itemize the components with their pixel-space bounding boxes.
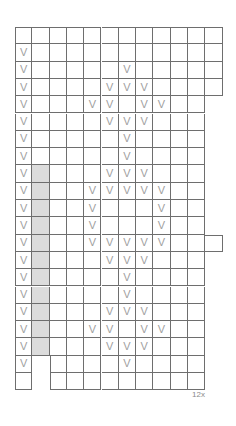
chart-cell: V — [153, 217, 170, 234]
chart-cell — [171, 269, 188, 286]
chart-cell — [188, 131, 205, 148]
v-stitch-symbol: V — [106, 323, 113, 334]
chart-cell — [188, 304, 205, 321]
chart-cell: V — [136, 338, 153, 355]
chart-cell: V — [15, 217, 32, 234]
chart-cell — [67, 114, 84, 131]
chart-cell: V — [119, 62, 136, 79]
chart-cell — [171, 373, 188, 390]
chart-cell — [171, 27, 188, 44]
chart-cell — [32, 321, 49, 338]
chart-cell — [32, 287, 49, 304]
chart-cell: V — [102, 304, 119, 321]
chart-cell — [32, 269, 49, 286]
chart-cell: V — [84, 96, 101, 113]
chart-cell: V — [102, 114, 119, 131]
chart-cell — [153, 131, 170, 148]
chart-cell: V — [136, 165, 153, 182]
chart-cell — [102, 373, 119, 390]
chart-cell — [188, 321, 205, 338]
chart-cell: V — [153, 321, 170, 338]
chart-cell: V — [15, 62, 32, 79]
chart-cell — [102, 287, 119, 304]
chart-cell — [67, 62, 84, 79]
chart-cell: V — [15, 200, 32, 217]
chart-cell — [67, 287, 84, 304]
chart-cell — [67, 148, 84, 165]
chart-cell: V — [119, 148, 136, 165]
chart-cell — [102, 148, 119, 165]
chart-cell — [67, 269, 84, 286]
chart-cell: V — [102, 338, 119, 355]
v-stitch-symbol: V — [141, 341, 148, 352]
chart-cell — [50, 304, 67, 321]
v-stitch-symbol: V — [141, 168, 148, 179]
chart-cell — [136, 200, 153, 217]
chart-cell — [188, 217, 205, 234]
v-stitch-symbol: V — [158, 202, 165, 213]
v-stitch-symbol: V — [106, 81, 113, 92]
chart-cell: V — [15, 235, 32, 252]
v-stitch-symbol: V — [20, 98, 27, 109]
v-stitch-symbol: V — [89, 98, 96, 109]
chart-cell — [50, 96, 67, 113]
v-stitch-symbol: V — [20, 116, 27, 127]
chart-cell — [153, 287, 170, 304]
chart-cell: V — [84, 235, 101, 252]
v-stitch-symbol: V — [158, 185, 165, 196]
chart-cell — [84, 287, 101, 304]
chart-cell: V — [136, 183, 153, 200]
v-stitch-symbol: V — [106, 185, 113, 196]
v-stitch-symbol: V — [20, 46, 27, 57]
v-stitch-symbol: V — [20, 271, 27, 282]
v-stitch-symbol: V — [123, 64, 130, 75]
chart-cell — [32, 252, 49, 269]
chart-cell — [136, 287, 153, 304]
chart-cell — [84, 269, 101, 286]
chart-cell: V — [15, 304, 32, 321]
chart-cell — [188, 183, 205, 200]
v-stitch-symbol: V — [141, 254, 148, 265]
v-stitch-symbol: V — [158, 98, 165, 109]
chart-cell — [32, 96, 49, 113]
v-stitch-symbol: V — [123, 133, 130, 144]
chart-cell — [153, 148, 170, 165]
chart-cell: V — [15, 183, 32, 200]
chart-grid: VVVVVVVVVVVVVVVVVVVVVVVVVVVVVVVVVVVVVVVV… — [0, 0, 236, 426]
chart-cell — [32, 183, 49, 200]
chart-cell — [67, 165, 84, 182]
chart-cell — [153, 62, 170, 79]
chart-cell — [188, 373, 205, 390]
v-stitch-symbol: V — [141, 185, 148, 196]
chart-cell — [119, 96, 136, 113]
chart-cell — [67, 200, 84, 217]
chart-cell — [32, 235, 49, 252]
chart-cell: V — [119, 287, 136, 304]
chart-cell — [171, 114, 188, 131]
chart-cell — [32, 304, 49, 321]
v-stitch-symbol: V — [20, 168, 27, 179]
chart-cell — [205, 79, 222, 96]
chart-cell: V — [102, 252, 119, 269]
chart-cell: V — [15, 79, 32, 96]
chart-cell — [153, 373, 170, 390]
v-stitch-symbol: V — [123, 271, 130, 282]
chart-cell — [15, 373, 32, 390]
v-stitch-symbol: V — [20, 306, 27, 317]
chart-cell — [50, 114, 67, 131]
chart-cell: V — [15, 44, 32, 61]
chart-cell — [102, 200, 119, 217]
chart-cell: V — [102, 165, 119, 182]
chart-cell: V — [15, 131, 32, 148]
chart-cell — [205, 235, 222, 252]
chart-cell — [171, 356, 188, 373]
chart-cell — [136, 373, 153, 390]
v-stitch-symbol: V — [20, 133, 27, 144]
chart-cell — [119, 373, 136, 390]
v-stitch-symbol: V — [123, 185, 130, 196]
chart-cell — [188, 200, 205, 217]
chart-cell — [119, 321, 136, 338]
chart-cell — [171, 235, 188, 252]
chart-cell — [153, 114, 170, 131]
chart-cell — [67, 96, 84, 113]
